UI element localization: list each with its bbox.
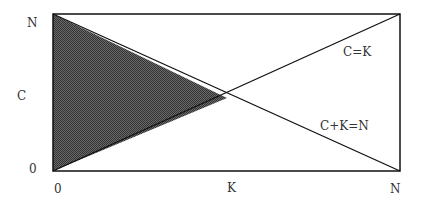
x-tick-n: N [390,183,401,195]
x-tick-k: K [227,182,236,194]
y-axis-label-c: C [17,90,26,102]
line-label-c-plus-k-equals-n: C+K=N [320,120,369,132]
shaded-region [53,14,227,171]
x-tick-0: 0 [54,183,62,195]
line-label-c-equals-k: C=K [343,46,371,58]
y-tick-0: 0 [29,163,37,175]
diagram-canvas [0,0,421,206]
y-tick-n: N [27,17,38,29]
